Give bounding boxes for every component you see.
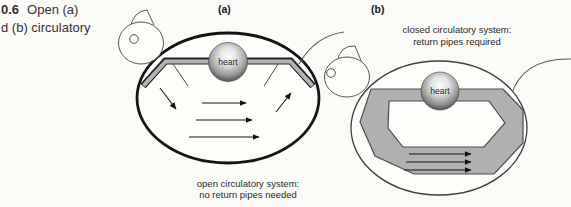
circulatory-figure-canvas: 0.6Open (a) d (b) circulatory (a) heart [0, 0, 571, 207]
panel-a-note-line2: no return pipes needed [199, 189, 297, 200]
panel-b-note-line1: closed circulatory system: [403, 24, 512, 35]
panel-a-animal-head [119, 10, 164, 64]
figure-caption-line1: 0.6Open (a) [1, 2, 78, 17]
panel-b-label: (b) [371, 3, 384, 15]
panel-b-heart-label: heart [430, 86, 450, 96]
panel-a-note-line1: open circulatory system: [197, 178, 299, 189]
panel-a-head-outline [119, 22, 164, 64]
figure-number-fragment: 0.6 [1, 2, 19, 17]
panel-a-label: (a) [218, 3, 231, 15]
figure-caption-line2: d (b) circulatory [1, 20, 91, 35]
panel-b-note-line2: return pipes required [413, 36, 501, 47]
panel-b-animal-head [325, 46, 370, 97]
figure-caption-line1-rest: Open (a) [27, 2, 78, 17]
panel-b-tail-curve [511, 59, 571, 96]
panel-a-heart-label: heart [218, 57, 238, 67]
figure-page: 0.6Open (a) d (b) circulatory (a) heart [0, 0, 571, 207]
panel-b: (b) closed circulatory system: return pi… [299, 3, 571, 195]
panel-a: (a) heart open circulatory system: no re… [119, 3, 320, 200]
